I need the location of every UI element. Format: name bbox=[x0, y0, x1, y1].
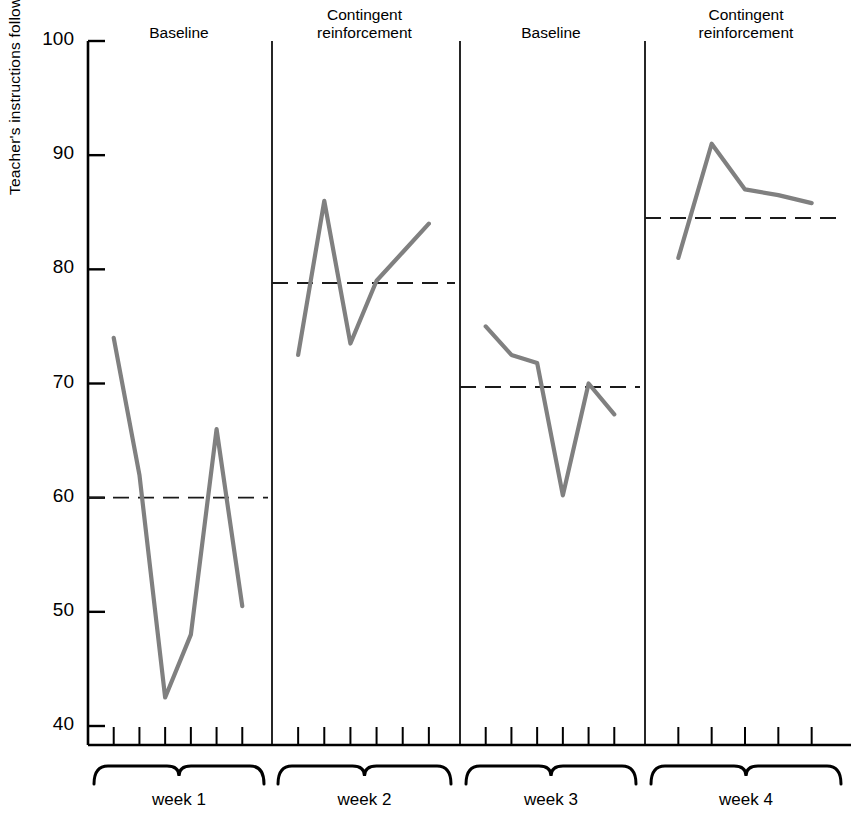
week-brackets bbox=[94, 766, 841, 784]
plot-area bbox=[0, 0, 858, 826]
axis-lines bbox=[88, 41, 851, 745]
tick-marks bbox=[88, 41, 812, 745]
single-subject-line-chart: Teacher's instructions followed, percent… bbox=[0, 0, 858, 826]
phase-divider-lines bbox=[272, 41, 645, 745]
data-series-lines bbox=[114, 144, 812, 698]
phase-mean-dashed-lines bbox=[88, 218, 845, 498]
